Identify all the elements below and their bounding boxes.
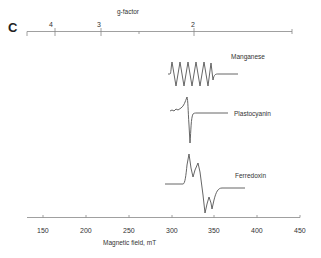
label-ferredoxin: Ferredoxin: [235, 172, 266, 179]
label-manganese: Manganese: [231, 53, 265, 61]
x-tick-350: 350: [208, 227, 220, 234]
g-tick-2: 2: [191, 21, 195, 28]
x-tick-400: 400: [251, 227, 263, 234]
x-tick-250: 250: [123, 227, 135, 234]
series-ferredoxin: Ferredoxin: [165, 154, 266, 213]
x-axis-title: Magnetic field, mT: [103, 239, 156, 247]
x-tick-200: 200: [80, 227, 92, 234]
series-manganese: Manganese: [168, 53, 265, 86]
x-tick-300: 300: [166, 227, 178, 234]
series-plastocyanin: Plastocyanin: [170, 97, 271, 143]
label-plastocyanin: Plastocyanin: [234, 110, 271, 118]
g-tick-4: 4: [49, 21, 53, 28]
g-factor-axis-title: g-factor: [117, 8, 140, 16]
g-tick-3: 3: [97, 21, 101, 28]
x-tick-450: 450: [294, 227, 306, 234]
x-tick-150: 150: [37, 227, 49, 234]
g-factor-axis: g-factor 4 3 2: [27, 8, 292, 36]
epr-spectra-figure: C g-factor 4 3 2 Manganese Plastocyanin …: [0, 0, 321, 258]
magnetic-field-axis: 150 200 250 300 350 400 450 Magnetic fie…: [27, 215, 306, 247]
panel-label: C: [8, 20, 18, 35]
